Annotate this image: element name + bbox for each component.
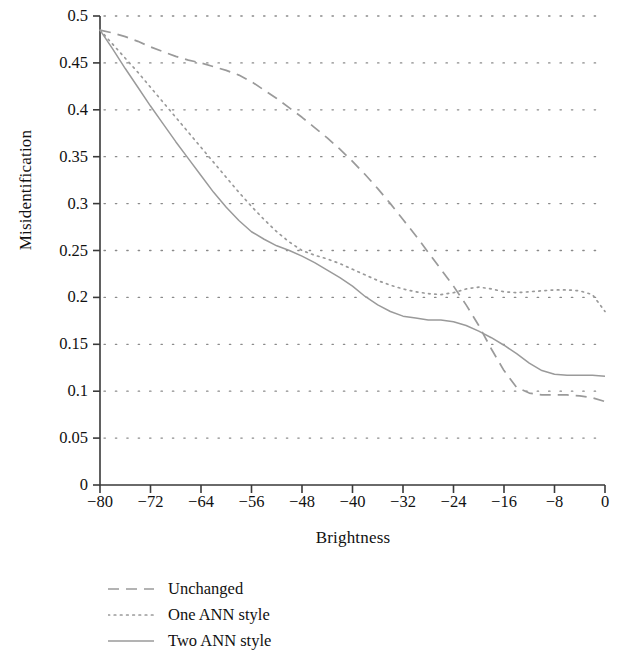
- legend-label: Unchanged: [168, 581, 243, 598]
- legend-key-dashed: [108, 582, 154, 596]
- legend-item: Two ANN style: [108, 628, 448, 654]
- chart-figure: Misidentification Brightness 00.050.10.1…: [0, 0, 623, 671]
- series-line-unchanged: [100, 30, 605, 401]
- chart-legend: UnchangedOne ANN styleTwo ANN style: [108, 576, 448, 654]
- axis-lines: [100, 16, 605, 485]
- legend-key-solid: [108, 634, 154, 648]
- legend-item: One ANN style: [108, 602, 448, 628]
- legend-label: Two ANN style: [168, 633, 271, 650]
- plot-area: [0, 0, 623, 540]
- legend-item: Unchanged: [108, 576, 448, 602]
- legend-label: One ANN style: [168, 607, 270, 624]
- series-line-two-ann-style: [100, 30, 605, 376]
- legend-key-dotted: [108, 608, 154, 622]
- series-line-one-ann-style: [100, 30, 605, 311]
